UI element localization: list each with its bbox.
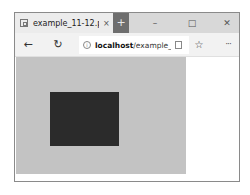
- refresh-button[interactable]: ↻: [49, 33, 67, 57]
- url-path: /example_11: [133, 41, 171, 50]
- title-bar: example_11-12.php × + – □ ✕: [15, 13, 239, 33]
- maximize-button[interactable]: □: [180, 13, 204, 33]
- address-toolbar: ← ↻ i localhost/example_11 ☆ ···: [15, 33, 239, 57]
- outer-gray-box: [16, 57, 186, 174]
- back-button[interactable]: ←: [19, 33, 37, 57]
- more-options-icon[interactable]: ···: [219, 33, 237, 57]
- browser-window: example_11-12.php × + – □ ✕ ← ↻ i localh…: [14, 12, 240, 182]
- tab-title: example_11-12.php: [33, 19, 99, 28]
- reading-view-icon[interactable]: [175, 41, 182, 49]
- url-text[interactable]: localhost/example_11: [95, 41, 171, 50]
- page-content: [15, 57, 239, 182]
- address-bar[interactable]: i localhost/example_11: [79, 36, 189, 54]
- minimize-button[interactable]: –: [143, 13, 167, 33]
- favorite-star-icon[interactable]: ☆: [191, 33, 207, 57]
- new-tab-button[interactable]: +: [113, 13, 129, 33]
- close-window-button[interactable]: ✕: [215, 13, 239, 33]
- tab-active[interactable]: example_11-12.php ×: [15, 13, 113, 33]
- tab-close-icon[interactable]: ×: [103, 19, 110, 28]
- info-icon[interactable]: i: [83, 41, 91, 49]
- url-host: localhost: [95, 41, 133, 50]
- inner-dark-box: [50, 92, 119, 146]
- page-icon: [20, 19, 28, 27]
